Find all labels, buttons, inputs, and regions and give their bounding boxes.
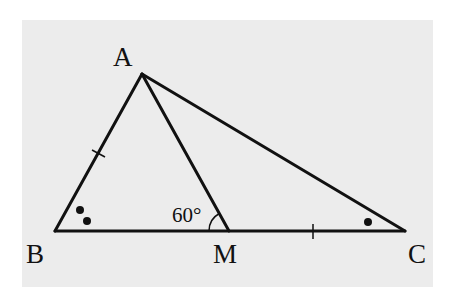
vertex-label-b: B [26,239,44,269]
angle-arc-m [209,214,219,232]
vertex-label-m: M [213,239,237,269]
vertex-label-c: C [408,239,426,269]
angle-dot-b-1 [76,206,84,214]
angle-dot-c [364,218,372,226]
segment-ab [55,74,142,231]
angle-label-60: 60° [172,203,201,227]
triangle-diagram: A B M C 60° [0,0,455,301]
vertex-label-a: A [113,42,133,72]
angle-dot-b-2 [83,217,91,225]
